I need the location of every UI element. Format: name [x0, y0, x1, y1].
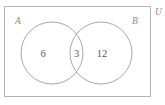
region-count-intersection: 3 — [74, 48, 79, 59]
set-a-label: A — [14, 16, 21, 26]
region-count-b-only: 12 — [97, 48, 108, 59]
region-count-a-only: 6 — [40, 48, 45, 59]
set-b-label: B — [132, 16, 138, 26]
venn-diagram-figure: U A B 6 3 12 — [0, 0, 165, 105]
universal-set-label: U — [155, 7, 163, 17]
